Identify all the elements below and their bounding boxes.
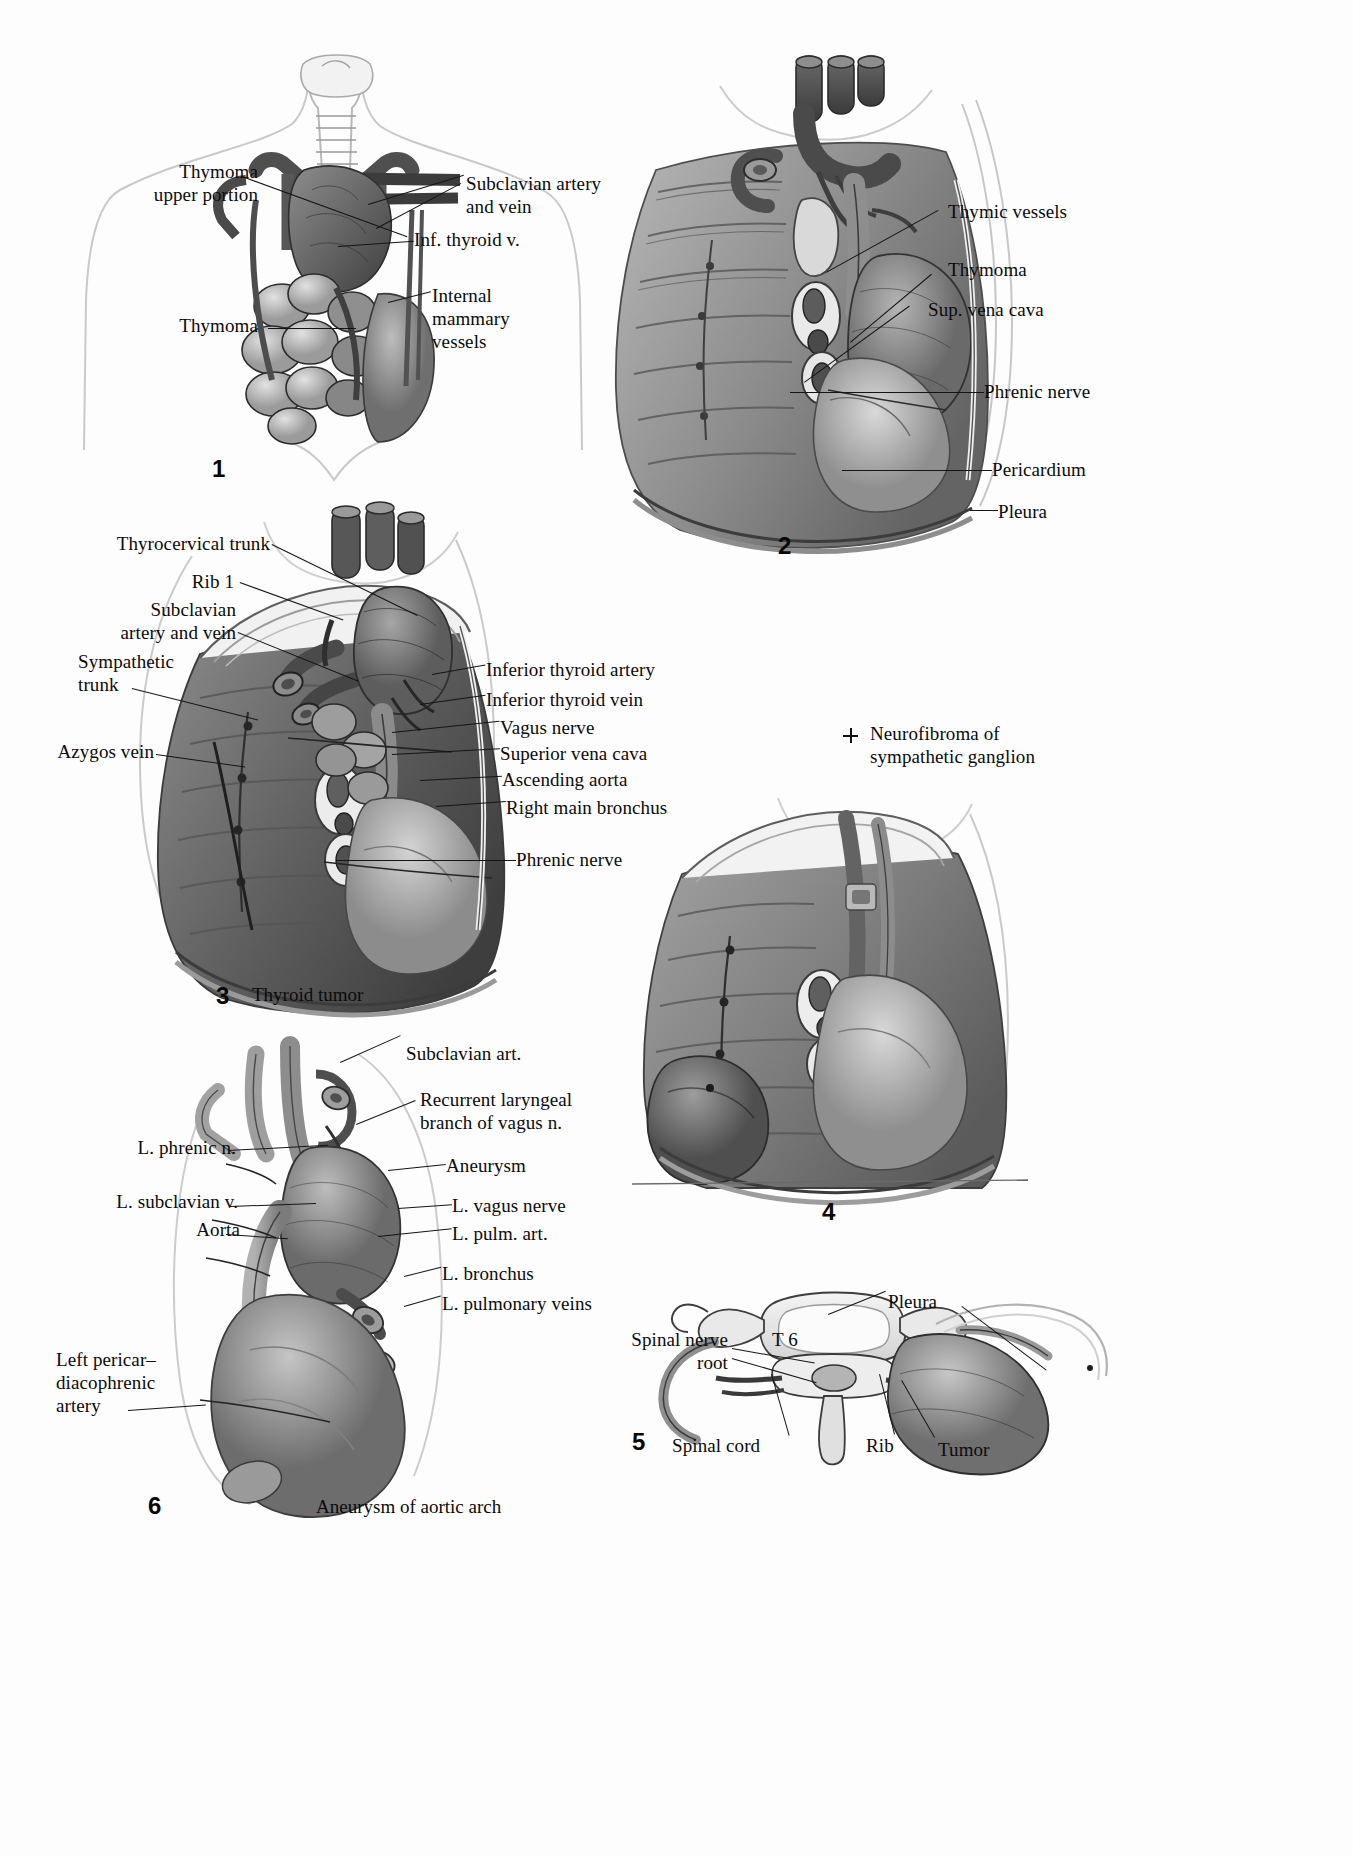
label-internal-mammary-vessels: Internal mammary vessels: [432, 284, 510, 354]
anatomy-plate-page: Thymoma upper portion Thymoma Subclavian…: [0, 0, 1353, 1855]
label-l-phrenic-n: L. phrenic n.: [110, 1136, 236, 1159]
label-azygos-vein: Azygos vein: [48, 740, 154, 763]
figure-number-3: 3: [216, 982, 229, 1010]
figure-4: Neurofibroma of sympathetic ganglion: [600, 700, 1353, 1210]
label-l-pulm-art: L. pulm. art.: [452, 1222, 548, 1245]
label-left-pericardiacophrenic-artery: Left pericar– diacophrenic artery: [56, 1348, 156, 1418]
label-rib: Rib: [866, 1434, 894, 1457]
label-phrenic-nerve: Phrenic nerve: [984, 380, 1090, 403]
figure-number-1: 1: [212, 455, 225, 483]
plus-cross-marker-icon: [843, 728, 858, 743]
label-sympathetic-trunk: Sympathetic trunk: [78, 650, 174, 696]
figure-6-caption: Aneurysm of aortic arch: [316, 1496, 501, 1518]
label-thymoma: Thymoma: [150, 314, 258, 337]
label-pleura: Pleura: [888, 1290, 937, 1313]
figure-number-6: 6: [148, 1492, 161, 1520]
leader-line: [336, 860, 516, 861]
label-thymoma: Thymoma: [948, 258, 1027, 281]
label-subclavian-art: Subclavian art.: [406, 1042, 521, 1065]
label-sup-vena-cava: Sup. vena cava: [928, 298, 1044, 321]
label-neurofibroma-of-sympathetic-ganglion: Neurofibroma of sympathetic ganglion: [870, 722, 1035, 768]
label-thymoma-upper-portion: Thymoma upper portion: [98, 160, 258, 206]
leader-line: [790, 392, 984, 393]
label-l-subclavian-v: L. subclavian v.: [84, 1190, 238, 1213]
label-aorta: Aorta: [130, 1218, 240, 1241]
figure-number-5: 5: [632, 1428, 645, 1456]
label-l-bronchus: L. bronchus: [442, 1262, 534, 1285]
label-inferior-thyroid-artery: Inferior thyroid artery: [486, 658, 655, 681]
label-vagus-nerve: Vagus nerve: [500, 716, 595, 739]
figure-4-artwork: [610, 788, 1050, 1188]
label-aneurysm: Aneurysm: [446, 1154, 526, 1177]
label-rib-1: Rib 1: [132, 570, 234, 593]
label-inf-thyroid-v: Inf. thyroid v.: [414, 228, 520, 251]
label-tumor: Tumor: [938, 1438, 990, 1461]
label-thyrocervical-trunk: Thyrocervical trunk: [62, 532, 270, 555]
label-l-vagus-nerve: L. vagus nerve: [452, 1194, 566, 1217]
label-subclavian-artery-and-vein: Subclavian artery and vein: [58, 598, 236, 644]
label-recurrent-laryngeal-branch-of-vagus-n: Recurrent laryngeal branch of vagus n.: [420, 1088, 572, 1134]
figure-number-4: 4: [822, 1198, 835, 1226]
leader-line: [268, 328, 356, 329]
figure-5: Spinal nerve root T 6 Pleura Tumor Rib S…: [600, 1250, 1353, 1510]
figure-6: Subclavian art. Recurrent laryngeal bran…: [0, 1010, 640, 1550]
figure-number-2: 2: [778, 532, 791, 560]
figure-3: Thyrocervical trunk Rib 1 Subclavian art…: [0, 500, 700, 1040]
figure-1-artwork: [60, 50, 620, 500]
figure-3-caption: Thyroid tumor: [252, 984, 363, 1006]
leader-line: [842, 470, 992, 471]
figure-1: Thymoma upper portion Thymoma Subclavian…: [0, 0, 620, 500]
label-spinal-nerve-root: Spinal nerve root: [618, 1328, 728, 1374]
label-vertebra-level: T 6: [772, 1328, 798, 1351]
label-l-pulmonary-veins: L. pulmonary veins: [442, 1292, 592, 1315]
label-thymic-vessels: Thymic vessels: [948, 200, 1067, 223]
leader-line: [970, 510, 998, 511]
label-pleura: Pleura: [998, 500, 1047, 523]
label-spinal-cord: Spinal cord: [672, 1434, 760, 1457]
label-pericardium: Pericardium: [992, 458, 1086, 481]
